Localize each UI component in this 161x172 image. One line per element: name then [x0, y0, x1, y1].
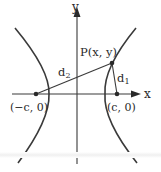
left-focus-label: (−c, 0): [10, 101, 48, 114]
point-p-label: P(x, y): [80, 45, 117, 59]
point-p: [110, 61, 115, 66]
y-axis: [74, 7, 81, 164]
d2-label: d2: [58, 65, 70, 80]
right-focus-label: (c, 0): [107, 101, 136, 114]
d1-label-sub: 1: [124, 77, 129, 86]
x-axis-arrow-icon: [131, 91, 141, 98]
d1-label: d1: [117, 71, 129, 86]
hyperbola-left-branch: [15, 28, 49, 163]
d2-segment: [36, 63, 112, 94]
right-focus-point: [115, 92, 120, 97]
scan-band: [0, 152, 161, 158]
diagram-canvas: y x P(x, y) d2 d1 (−c, 0) (c, 0): [0, 0, 161, 172]
left-focus-point: [34, 92, 39, 97]
d2-label-sub: 2: [65, 71, 70, 80]
hyperbola-diagram: y x P(x, y) d2 d1 (−c, 0) (c, 0): [0, 0, 161, 172]
y-axis-label: y: [71, 0, 79, 14]
x-axis-label: x: [144, 87, 151, 101]
